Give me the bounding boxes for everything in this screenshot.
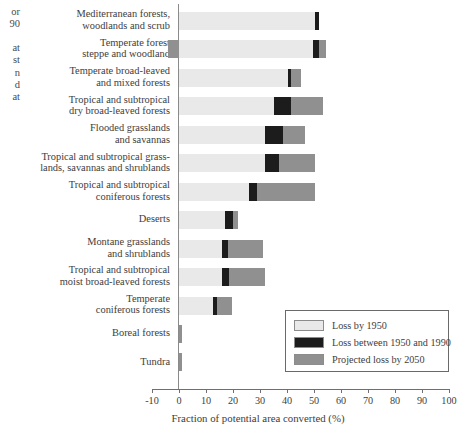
legend-label: Loss between 1950 and 1990 — [332, 336, 451, 349]
x-axis-tick — [341, 389, 342, 393]
bar-segment-projected-2050 — [291, 69, 302, 87]
x-axis-tick-label: 10 — [191, 395, 221, 406]
x-axis-tick-label: 90 — [407, 395, 437, 406]
bar-segment-loss-1950-1990 — [313, 40, 320, 58]
bar-segment-loss-1950 — [179, 211, 225, 229]
bar-row — [0, 12, 454, 30]
bar-segment-projected-2050 — [283, 126, 305, 144]
chart-legend: Loss by 1950Loss between 1950 and 1990Pr… — [285, 310, 449, 372]
bar-segment-projected-2050 — [291, 97, 323, 115]
x-axis-tick-label: 80 — [380, 395, 410, 406]
x-axis-tick-label: 100 — [434, 395, 461, 406]
bar-segment-projected-2050 — [179, 325, 182, 343]
x-axis-title-text: Fraction of potential area converted (%) — [110, 412, 345, 424]
x-axis-tick — [449, 389, 450, 393]
bar-segment-loss-1950-1990 — [315, 12, 319, 30]
bar-segment-loss-1950 — [179, 97, 274, 115]
x-axis-tick — [260, 389, 261, 393]
bar-row — [0, 268, 454, 286]
legend-label: Loss by 1950 — [332, 319, 387, 332]
bar-row — [0, 211, 454, 229]
x-axis-tick-label: 30 — [245, 395, 275, 406]
bar-segment-loss-1950-1990 — [225, 211, 233, 229]
bar-segment-projected-2050-negative — [168, 40, 179, 58]
bar-row — [0, 97, 454, 115]
bar-row — [0, 183, 454, 201]
x-axis-tick-label: 70 — [353, 395, 383, 406]
bar-segment-projected-2050 — [257, 183, 315, 201]
x-axis-tick — [206, 389, 207, 393]
bar-segment-loss-1950 — [179, 126, 265, 144]
legend-label: Projected loss by 2050 — [332, 353, 425, 366]
bar-segment-projected-2050 — [229, 268, 265, 286]
bar-segment-loss-1950 — [179, 268, 222, 286]
bar-segment-projected-2050 — [217, 297, 232, 315]
bar-row — [0, 40, 454, 58]
x-axis-tick — [233, 389, 234, 393]
legend-swatch-loss-1950-1990 — [294, 337, 324, 348]
bar-segment-loss-1950-1990 — [265, 154, 279, 172]
bar-segment-projected-2050 — [233, 211, 238, 229]
bar-segment-projected-2050 — [179, 353, 182, 371]
bar-row — [0, 154, 454, 172]
x-axis-line — [152, 389, 450, 390]
x-axis-tick-label: 50 — [299, 395, 329, 406]
bar-segment-projected-2050 — [279, 154, 315, 172]
x-axis-tick-label: 40 — [272, 395, 302, 406]
bar-segment-loss-1950 — [179, 297, 213, 315]
bar-segment-loss-1950-1990 — [265, 126, 283, 144]
bar-row — [0, 240, 454, 258]
bar-segment-loss-1950 — [179, 154, 265, 172]
x-axis-tick — [152, 389, 153, 393]
bar-segment-projected-2050 — [228, 240, 263, 258]
x-axis-tick-label: 0 — [164, 395, 194, 406]
x-axis-tick — [179, 389, 180, 393]
bar-segment-loss-1950 — [179, 183, 249, 201]
bar-row — [0, 69, 454, 87]
bar-segment-loss-1950-1990 — [222, 268, 229, 286]
bar-row — [0, 126, 454, 144]
x-axis-tick — [422, 389, 423, 393]
x-axis-tick-label: 60 — [326, 395, 356, 406]
legend-swatch-projected-2050 — [294, 354, 324, 365]
x-axis-tick-label: -10 — [137, 395, 167, 406]
bar-segment-loss-1950 — [179, 12, 315, 30]
x-axis-tick — [395, 389, 396, 393]
x-axis-tick — [287, 389, 288, 393]
bar-segment-loss-1950-1990 — [274, 97, 292, 115]
bar-segment-projected-2050 — [319, 40, 326, 58]
bar-segment-loss-1950 — [179, 40, 313, 58]
bar-segment-loss-1950 — [179, 69, 288, 87]
x-axis-tick — [368, 389, 369, 393]
bar-segment-loss-1950 — [179, 240, 222, 258]
x-axis-title: Fraction of potential area converted (%) — [0, 412, 454, 424]
x-axis-tick — [314, 389, 315, 393]
bar-segment-loss-1950-1990 — [249, 183, 257, 201]
x-axis-tick-label: 20 — [218, 395, 248, 406]
legend-swatch-loss-1950 — [294, 320, 324, 331]
